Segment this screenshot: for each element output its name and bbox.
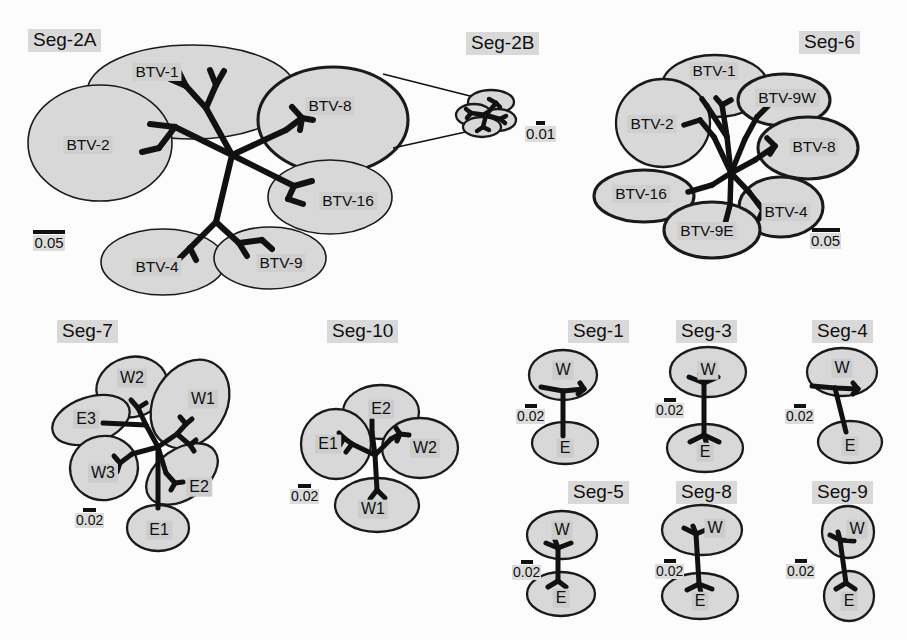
figure-canvas: Seg-2A xyxy=(0,0,907,640)
cluster-label-e: E xyxy=(841,592,858,611)
seg-9-network xyxy=(0,0,907,640)
scale-bar-seg-9: 0.02 xyxy=(786,559,815,579)
cluster-label-w: W xyxy=(846,520,867,539)
scale-bar-label: 0.02 xyxy=(786,564,815,579)
